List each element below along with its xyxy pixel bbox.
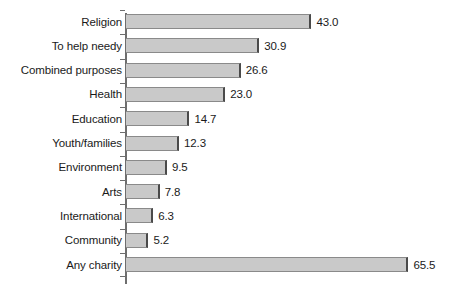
bar-row: Community5.2 xyxy=(0,233,458,248)
axis-tick xyxy=(120,59,125,60)
bar-value-label: 65.5 xyxy=(413,259,435,271)
category-label: To help needy xyxy=(52,40,122,52)
bar-row: Youth/families12.3 xyxy=(0,136,458,151)
bar-chart: Religion43.0To help needy30.9Combined pu… xyxy=(0,0,458,294)
axis-tick xyxy=(120,83,125,84)
bar-value-label: 6.3 xyxy=(158,210,174,222)
axis-tick xyxy=(120,10,125,11)
bar-row: To help needy30.9 xyxy=(0,38,458,53)
axis-tick xyxy=(120,204,125,205)
bar-value-label: 23.0 xyxy=(230,88,252,100)
category-label: Combined purposes xyxy=(21,64,122,76)
bar xyxy=(126,38,259,53)
bar xyxy=(126,257,408,272)
bar-value-label: 7.8 xyxy=(165,186,181,198)
bar-value-label: 30.9 xyxy=(264,40,286,52)
category-label: Arts xyxy=(102,186,122,198)
axis-tick xyxy=(120,229,125,230)
bar-value-label: 5.2 xyxy=(153,234,169,246)
axis-tick xyxy=(120,180,125,181)
bar xyxy=(126,14,311,29)
category-label: Education xyxy=(72,113,122,125)
bar-row: Health23.0 xyxy=(0,87,458,102)
axis-tick xyxy=(120,156,125,157)
category-label: Any charity xyxy=(66,259,122,271)
bar-row: Environment9.5 xyxy=(0,160,458,175)
bar xyxy=(126,233,148,248)
bar-row: Arts7.8 xyxy=(0,184,458,199)
axis-tick xyxy=(120,132,125,133)
category-label: Environment xyxy=(59,161,122,173)
axis-tick xyxy=(120,253,125,254)
bar-row: Religion43.0 xyxy=(0,14,458,29)
category-label: International xyxy=(60,210,122,222)
axis-tick xyxy=(120,34,125,35)
bar xyxy=(126,111,189,126)
bar xyxy=(126,63,241,78)
bar-row: Combined purposes26.6 xyxy=(0,63,458,78)
bar-row: Education14.7 xyxy=(0,111,458,126)
bar xyxy=(126,208,153,223)
category-label: Community xyxy=(65,234,122,246)
bar xyxy=(126,184,160,199)
bar-row: Any charity65.5 xyxy=(0,257,458,272)
bar-value-label: 9.5 xyxy=(172,161,188,173)
bar-value-label: 26.6 xyxy=(246,64,268,76)
bar-row: International6.3 xyxy=(0,208,458,223)
category-label: Health xyxy=(89,88,122,100)
bar xyxy=(126,87,225,102)
bar-value-label: 43.0 xyxy=(316,16,338,28)
bar-value-label: 12.3 xyxy=(184,137,206,149)
category-label: Youth/families xyxy=(52,137,122,149)
bar xyxy=(126,160,167,175)
bar-value-label: 14.7 xyxy=(194,113,216,125)
category-label: Religion xyxy=(81,16,122,28)
axis-tick xyxy=(120,276,125,277)
axis-tick xyxy=(120,107,125,108)
bar xyxy=(126,136,179,151)
